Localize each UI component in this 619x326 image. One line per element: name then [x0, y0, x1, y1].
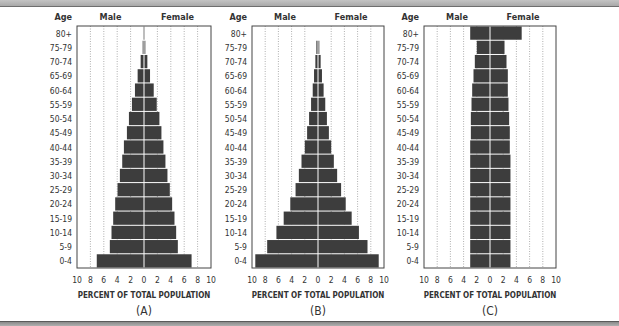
bar-male-40-44 — [124, 140, 144, 153]
age-label: 55-59 — [397, 100, 419, 110]
age-label: 35-39 — [225, 157, 247, 167]
x-tick-label: 0 — [488, 275, 493, 285]
bar-female-25-29 — [490, 183, 510, 196]
bar-male-70-74 — [141, 55, 144, 68]
x-tick-label: 10 — [419, 275, 429, 285]
x-tick-label: 4 — [461, 275, 466, 285]
bar-male-50-54 — [129, 112, 144, 125]
bar-male-70-74 — [475, 55, 490, 68]
bar-female-0-4 — [490, 254, 510, 267]
bar-female-20-24 — [318, 197, 346, 210]
bar-male-25-29 — [118, 183, 144, 196]
bar-female-65-69 — [144, 69, 150, 82]
age-label: 5-9 — [407, 242, 420, 252]
age-label: 80+ — [231, 29, 247, 39]
age-label: 45-49 — [50, 128, 72, 138]
bar-male-5-9 — [470, 240, 490, 253]
bar-male-75-79 — [477, 41, 490, 54]
x-tick-label: 2 — [474, 275, 479, 285]
bar-female-25-29 — [144, 183, 170, 196]
bar-female-45-49 — [318, 126, 329, 139]
bar-female-80+ — [490, 27, 522, 40]
bar-male-45-49 — [471, 126, 490, 139]
bar-male-65-69 — [474, 69, 491, 82]
x-tick-label: 10 — [551, 275, 561, 285]
age-label: 60-64 — [225, 86, 247, 96]
bar-male-25-29 — [296, 183, 318, 196]
pyramid-chart-b: 80+75-7970-7465-6960-6455-5950-5445-4940… — [225, 12, 389, 318]
bar-male-35-39 — [122, 155, 144, 168]
age-header: Age — [229, 12, 247, 22]
x-tick-label: 2 — [128, 275, 133, 285]
age-label: 65-69 — [225, 71, 247, 81]
bar-male-0-4 — [97, 254, 144, 267]
bar-male-45-49 — [127, 126, 144, 139]
x-axis-label: PERCENT OF TOTAL POPULATION — [78, 291, 211, 300]
x-tick-label: 4 — [289, 275, 294, 285]
x-tick-label: 0 — [316, 275, 321, 285]
chart-caption: (A) — [136, 304, 152, 318]
bar-female-30-34 — [490, 169, 510, 182]
age-label: 75-79 — [50, 43, 72, 53]
bar-male-65-69 — [314, 69, 318, 82]
x-tick-label: 6 — [527, 275, 532, 285]
age-label: 35-39 — [397, 157, 419, 167]
age-label: 70-74 — [397, 57, 419, 67]
x-tick-label: 4 — [115, 275, 120, 285]
x-tick-label: 2 — [501, 275, 506, 285]
bar-female-0-4 — [144, 254, 192, 267]
bar-male-5-9 — [267, 240, 318, 253]
bar-male-0-4 — [470, 254, 490, 267]
age-label: 60-64 — [50, 86, 72, 96]
x-tick-label: 10 — [72, 275, 82, 285]
bar-female-15-19 — [318, 212, 352, 225]
age-label: 5-9 — [60, 242, 73, 252]
age-label: 50-54 — [397, 114, 419, 124]
age-label: 35-39 — [50, 157, 72, 167]
bar-female-5-9 — [144, 240, 178, 253]
bar-female-45-49 — [144, 126, 161, 139]
female-header: Female — [335, 12, 368, 22]
x-tick-label: 8 — [88, 275, 93, 285]
age-label: 0-4 — [60, 256, 73, 266]
bar-male-10-14 — [470, 226, 490, 239]
bar-male-60-64 — [313, 83, 318, 96]
bar-male-40-44 — [305, 140, 318, 153]
bar-female-40-44 — [144, 140, 163, 153]
bar-male-20-24 — [290, 197, 318, 210]
bar-female-15-19 — [144, 212, 174, 225]
age-label: 45-49 — [225, 128, 247, 138]
bar-female-5-9 — [318, 240, 368, 253]
x-tick-label: 6 — [101, 275, 106, 285]
bar-female-40-44 — [490, 140, 510, 153]
bar-male-35-39 — [302, 155, 319, 168]
x-tick-label: 0 — [142, 275, 147, 285]
x-tick-label: 10 — [206, 275, 216, 285]
bar-female-75-79 — [490, 41, 505, 54]
bar-male-50-54 — [471, 112, 490, 125]
age-label: 50-54 — [225, 114, 247, 124]
bar-male-55-59 — [132, 98, 144, 111]
x-tick-label: 8 — [263, 275, 268, 285]
chart-caption: (B) — [310, 304, 326, 318]
age-label: 20-24 — [50, 199, 72, 209]
x-tick-label: 6 — [355, 275, 360, 285]
x-tick-label: 6 — [448, 275, 453, 285]
x-tick-label: 10 — [379, 275, 389, 285]
x-tick-label: 8 — [540, 275, 545, 285]
bar-male-5-9 — [110, 240, 144, 253]
x-tick-label: 8 — [435, 275, 440, 285]
age-label: 50-54 — [50, 114, 72, 124]
bar-female-55-59 — [490, 98, 508, 111]
age-header: Age — [54, 12, 72, 22]
bar-female-60-64 — [144, 83, 154, 96]
x-tick-label: 4 — [342, 275, 347, 285]
x-tick-label: 2 — [302, 275, 307, 285]
bottom-border-band — [0, 321, 619, 326]
bar-male-20-24 — [470, 197, 490, 210]
bar-male-45-49 — [307, 126, 318, 139]
x-tick-label: 6 — [276, 275, 281, 285]
age-label: 15-19 — [225, 214, 247, 224]
bar-female-50-54 — [144, 112, 159, 125]
